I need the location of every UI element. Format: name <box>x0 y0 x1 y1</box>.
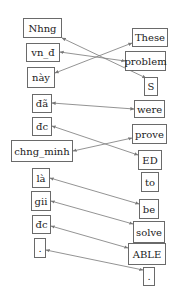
source-token: này <box>27 67 55 88</box>
target-token: . <box>143 267 155 286</box>
target-token: S <box>144 77 158 96</box>
alignment-link <box>55 43 132 73</box>
source-token: đc <box>32 215 51 234</box>
alignment-link <box>50 178 139 204</box>
target-token: ABLE <box>128 243 166 265</box>
target-token: problem <box>125 51 166 71</box>
target-token: to <box>141 172 159 192</box>
alignment-link <box>51 226 128 248</box>
source-token: vn_đ <box>26 43 60 62</box>
target-token: These <box>132 28 168 47</box>
source-token: . <box>34 238 46 258</box>
alignment-diagram: Nhngvn_đnàyđãđcchng_minhlàgiiđc. Thesepr… <box>0 0 183 305</box>
alignment-link <box>60 52 125 61</box>
source-token: đc <box>32 117 52 136</box>
source-token: là <box>32 168 50 188</box>
source-token: chng_minh <box>11 140 73 162</box>
target-token: solve <box>133 221 165 243</box>
target-token: ED <box>138 150 162 170</box>
alignment-link <box>51 201 133 224</box>
source-token: gii <box>31 191 51 211</box>
alignment-link <box>52 103 134 109</box>
source-token: Nhng <box>23 18 62 38</box>
target-token: be <box>139 199 159 219</box>
alignment-link <box>73 138 132 151</box>
target-token: were <box>134 100 165 118</box>
target-token: prove <box>132 124 167 144</box>
source-token: đã <box>32 94 52 113</box>
